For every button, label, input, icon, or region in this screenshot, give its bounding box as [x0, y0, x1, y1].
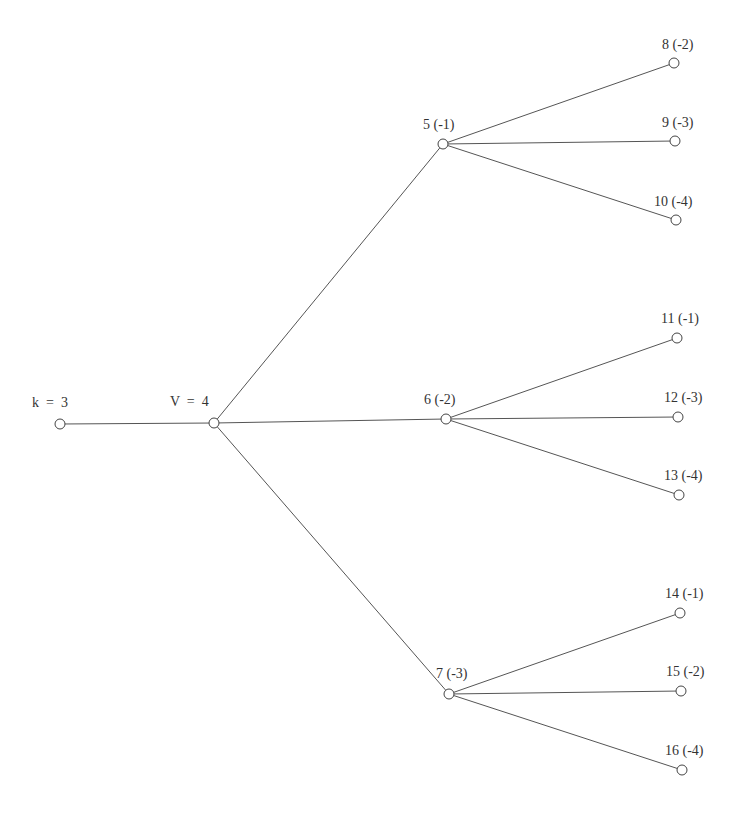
node-n7 [444, 689, 454, 699]
node-label-n10: 10 (-4) [654, 194, 693, 210]
node-n12 [673, 412, 683, 422]
node-label-n5: 5 (-1) [423, 117, 455, 133]
tree-diagram: k = 3V = 45 (-1)6 (-2)7 (-3)8 (-2)9 (-3)… [0, 0, 740, 817]
node-n9 [670, 136, 680, 146]
node-label-n16: 16 (-4) [665, 743, 704, 759]
node-label-n11: 11 (-1) [661, 311, 699, 327]
edge-n5-n9 [443, 141, 675, 144]
node-label-n9: 9 (-3) [662, 115, 694, 131]
node-label-n12: 12 (-3) [664, 390, 703, 406]
node-label-n7: 7 (-3) [436, 666, 468, 682]
node-n8 [669, 58, 679, 68]
edge-n7-n14 [449, 613, 680, 694]
edge-v-n5 [214, 144, 443, 423]
edge-n6-n11 [446, 338, 677, 419]
node-label-n6: 6 (-2) [424, 392, 456, 408]
node-n6 [441, 414, 451, 424]
edge-v-n7 [214, 423, 449, 694]
node-n10 [671, 215, 681, 225]
node-label-n8: 8 (-2) [662, 37, 694, 53]
edge-n5-n8 [443, 63, 674, 144]
node-v [209, 418, 219, 428]
node-label-n13: 13 (-4) [664, 468, 703, 484]
edge-n6-n13 [446, 419, 679, 495]
node-label-n15: 15 (-2) [666, 664, 705, 680]
edge-n6-n12 [446, 417, 678, 419]
edge-n7-n15 [449, 691, 681, 694]
node-label-k: k = 3 [32, 395, 68, 410]
node-n14 [675, 608, 685, 618]
edge-k-v [60, 423, 214, 424]
edges-layer [60, 63, 682, 770]
node-n13 [674, 490, 684, 500]
edge-n7-n16 [449, 694, 682, 770]
edge-v-n6 [214, 419, 446, 423]
node-k [55, 419, 65, 429]
labels-layer: k = 3V = 45 (-1)6 (-2)7 (-3)8 (-2)9 (-3)… [32, 37, 705, 759]
node-label-v: V = 4 [170, 394, 209, 409]
nodes-layer [55, 58, 687, 775]
node-n5 [438, 139, 448, 149]
edge-n5-n10 [443, 144, 676, 220]
node-n16 [677, 765, 687, 775]
node-label-n14: 14 (-1) [665, 586, 704, 602]
node-n11 [672, 333, 682, 343]
node-n15 [676, 686, 686, 696]
